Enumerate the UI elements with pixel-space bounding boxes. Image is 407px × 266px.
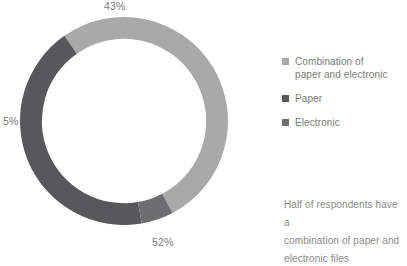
legend-swatch-combination <box>282 58 289 65</box>
legend-label-electronic: Electronic <box>295 116 340 129</box>
caption-line-3: electronic files <box>284 250 404 266</box>
chart-caption: Half of respondents have a combination o… <box>284 196 404 266</box>
legend-label-paper: Paper <box>295 92 322 105</box>
legend-item-paper[interactable]: Paper <box>282 92 404 105</box>
donut-svg <box>20 17 228 225</box>
chart-legend: Combination of paper and electronic Pape… <box>282 55 404 129</box>
data-label-combination: 52% <box>152 236 174 248</box>
legend-swatch-electronic <box>282 119 289 126</box>
legend-label-combination-line1: Combination of <box>295 56 364 67</box>
caption-line-1: Half of respondents have a <box>284 196 404 232</box>
caption-line-2: combination of paper and <box>284 232 404 250</box>
legend-item-combination[interactable]: Combination of paper and electronic <box>282 55 404 81</box>
legend-label-combination-line2: paper and electronic <box>295 69 388 80</box>
donut-chart <box>20 17 228 225</box>
legend-swatch-paper <box>282 95 289 102</box>
legend-label-combination: Combination of paper and electronic <box>295 55 388 81</box>
data-label-electronic: 5% <box>3 115 19 127</box>
legend-item-electronic[interactable]: Electronic <box>282 116 404 129</box>
donut-segments <box>20 17 228 225</box>
donut-segment-combination[interactable] <box>64 17 228 213</box>
data-label-paper: 43% <box>104 0 126 12</box>
donut-segment-paper[interactable] <box>20 36 142 225</box>
